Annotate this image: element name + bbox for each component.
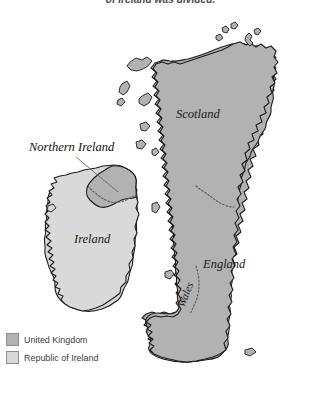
map-label-england: England [202, 257, 246, 271]
outer-hebrides-lewis [127, 57, 152, 71]
isle-of-wight [245, 348, 256, 356]
legend-item-united-kingdom: United Kingdom [6, 331, 103, 347]
isle-of-islay [136, 140, 146, 149]
anglesey [165, 270, 174, 279]
map-label-scotland: Scotland [176, 107, 220, 121]
legend-item-republic-of-ireland: Republic of Ireland [6, 349, 103, 365]
shetland-islands-north [254, 28, 261, 35]
map-figure: of Ireland was divided. [0, 0, 321, 400]
orkney-islands [222, 26, 229, 33]
orkney-islands-b [231, 22, 238, 29]
legend-label-republic-of-ireland: Republic of Ireland [24, 352, 98, 363]
isle-of-skye [139, 93, 152, 106]
map-legend: United Kingdom Republic of Ireland [6, 331, 103, 367]
map-label-ireland: Ireland [73, 232, 111, 246]
isle-of-arran [152, 148, 159, 156]
isle-of-mull [140, 122, 150, 131]
map-label-northern-ireland: Northern Ireland [28, 140, 115, 154]
legend-label-united-kingdom: United Kingdom [24, 334, 88, 345]
outer-hebrides-barra [117, 98, 125, 106]
outer-hebrides-uist [119, 81, 130, 95]
isle-of-man [152, 202, 160, 213]
legend-swatch-united-kingdom [6, 333, 19, 346]
orkney-islands-c [216, 34, 223, 41]
legend-swatch-republic-of-ireland [6, 351, 19, 364]
